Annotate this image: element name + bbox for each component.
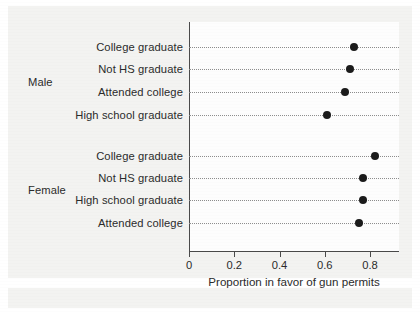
data-row <box>189 178 399 179</box>
data-point-marker[interactable] <box>355 219 363 227</box>
category-label: Attended college <box>98 217 183 229</box>
x-axis-tick <box>280 252 281 257</box>
data-rows-layer: College graduateNot HS graduateAttended … <box>0 0 420 312</box>
x-axis-tick <box>189 252 190 257</box>
row-leader-line <box>189 156 399 157</box>
x-axis-tick-label: 0.2 <box>226 259 242 271</box>
data-row <box>189 156 399 157</box>
category-label: College graduate <box>96 41 183 53</box>
row-leader-line <box>189 200 399 201</box>
x-axis-tick <box>234 252 235 257</box>
category-label: College graduate <box>96 150 183 162</box>
data-row <box>189 223 399 224</box>
figure-root: College graduateNot HS graduateAttended … <box>0 0 420 312</box>
x-axis-tick-label: 0 <box>186 259 192 271</box>
data-row <box>189 115 399 116</box>
data-row <box>189 200 399 201</box>
x-axis-tick-label: 0.4 <box>272 259 288 271</box>
row-leader-line <box>189 47 399 48</box>
x-axis-tick-label: 0.8 <box>362 259 378 271</box>
data-point-marker[interactable] <box>359 174 367 182</box>
data-point-marker[interactable] <box>323 111 331 119</box>
row-leader-line <box>189 178 399 179</box>
x-axis-title: Proportion in favor of gun permits <box>189 275 399 288</box>
data-point-marker[interactable] <box>346 65 354 73</box>
group-label: Female <box>28 184 66 196</box>
x-axis-tick <box>325 252 326 257</box>
data-row <box>189 92 399 93</box>
x-axis-tick-label: 0.6 <box>317 259 333 271</box>
x-axis-tick <box>370 252 371 257</box>
row-leader-line <box>189 92 399 93</box>
row-leader-line <box>189 115 399 116</box>
category-label: High school graduate <box>75 109 183 121</box>
data-point-marker[interactable] <box>359 196 367 204</box>
category-label: Not HS graduate <box>98 63 183 75</box>
group-label: Male <box>28 76 53 88</box>
data-point-marker[interactable] <box>341 88 349 96</box>
row-leader-line <box>189 69 399 70</box>
category-label: Not HS graduate <box>98 172 183 184</box>
data-row <box>189 47 399 48</box>
row-leader-line <box>189 223 399 224</box>
data-row <box>189 69 399 70</box>
data-point-marker[interactable] <box>350 43 358 51</box>
data-point-marker[interactable] <box>371 152 379 160</box>
category-label: Attended college <box>98 86 183 98</box>
category-label: High school graduate <box>75 194 183 206</box>
